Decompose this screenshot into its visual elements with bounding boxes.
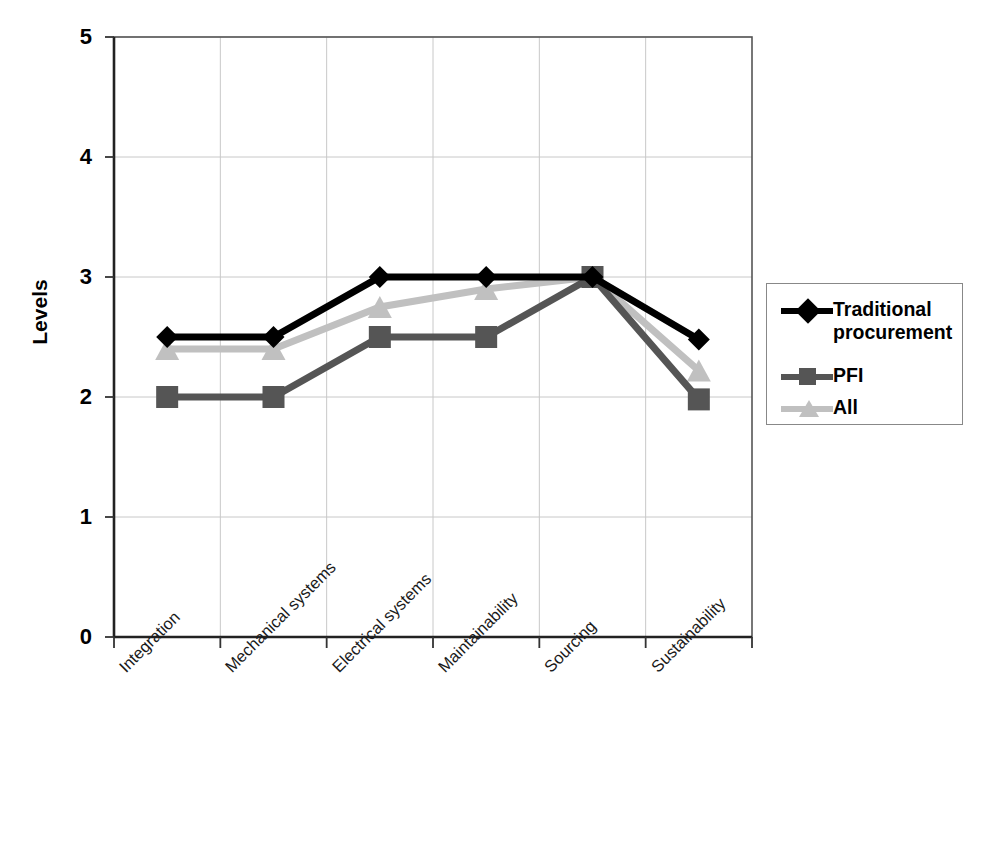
- legend-marker-shape: [795, 298, 820, 323]
- data-point-marker: [156, 386, 178, 408]
- y-tick-label: 2: [58, 386, 92, 408]
- legend-entry[interactable]: All: [781, 396, 858, 421]
- y-tick-label: 0: [58, 626, 92, 648]
- legend-entry[interactable]: PFI: [781, 364, 863, 389]
- y-axis-title: Levels: [28, 252, 52, 372]
- data-point-marker: [263, 386, 285, 408]
- legend-label: Traditional procurement: [833, 298, 961, 344]
- data-point-marker: [688, 388, 710, 410]
- y-tick-label: 3: [58, 266, 92, 288]
- chart-legend: Traditional procurementPFIAll: [766, 283, 963, 425]
- triangle-icon: [799, 400, 819, 417]
- legend-swatch: [781, 365, 833, 389]
- data-point-marker: [475, 326, 497, 348]
- line-chart: Levels 543210 IntegrationMechanical syst…: [0, 0, 997, 843]
- diamond-icon: [799, 302, 817, 320]
- y-tick-label: 4: [58, 146, 92, 168]
- square-icon: [799, 368, 816, 385]
- legend-label: All: [833, 396, 858, 419]
- legend-entry[interactable]: Traditional procurement: [781, 298, 961, 344]
- legend-marker-shape: [799, 368, 816, 385]
- y-axis-ticks: [105, 37, 114, 637]
- legend-label: PFI: [833, 364, 863, 387]
- y-tick-label: 5: [58, 26, 92, 48]
- legend-swatch: [781, 397, 833, 421]
- y-tick-label: 1: [58, 506, 92, 528]
- legend-swatch: [781, 299, 833, 323]
- x-axis-ticks: [114, 637, 752, 648]
- data-point-marker: [369, 326, 391, 348]
- legend-marker-shape: [799, 400, 819, 417]
